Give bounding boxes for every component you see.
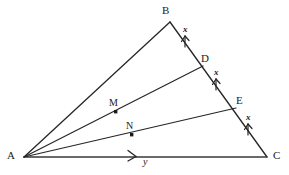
point-label-n: N xyxy=(126,121,133,131)
point-dot-n xyxy=(130,133,133,136)
point-dot-m xyxy=(114,110,117,113)
segment-ab xyxy=(24,22,170,157)
tick-label-x-de: x xyxy=(214,68,219,77)
base-direction-arrow xyxy=(128,151,136,162)
tick-arrow-ec xyxy=(245,124,253,135)
base-label-y: y xyxy=(143,157,147,167)
vertex-label-a: A xyxy=(7,150,15,161)
geometry-figure: B A C D E M N x x x y xyxy=(0,0,289,175)
point-label-d: D xyxy=(201,53,209,64)
segment-ae xyxy=(24,108,236,157)
tick-arrow-de xyxy=(213,79,221,90)
vertex-label-b: B xyxy=(162,5,169,16)
segment-ad xyxy=(24,66,203,157)
point-label-e: E xyxy=(236,95,243,106)
point-label-m: M xyxy=(109,98,118,108)
tick-label-x-ec: x xyxy=(246,113,251,122)
figure-canvas xyxy=(0,0,289,175)
tick-label-x-bd: x xyxy=(183,25,188,34)
tick-arrow-bd xyxy=(182,36,190,47)
vertex-label-c: C xyxy=(273,150,280,161)
